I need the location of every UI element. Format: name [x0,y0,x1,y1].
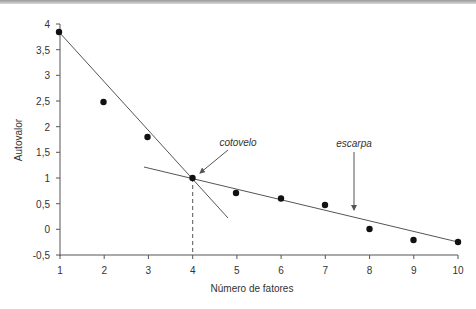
data-point [56,29,62,35]
x-tick-label: 6 [278,265,284,276]
cotovelo-arrow-icon [200,150,228,173]
x-tick-label: 8 [367,265,373,276]
data-point [366,226,372,232]
data-point [455,239,461,245]
y-tick-label: -0,5 [33,250,51,261]
escarpa-label: escarpa [336,138,372,149]
cotovelo-label: cotovelo [219,137,257,148]
x-tick-label: 1 [57,265,63,276]
y-tick-label: 3 [44,70,50,81]
data-point [144,134,150,140]
data-points [56,29,461,245]
data-point [278,195,284,201]
x-tick-label: 3 [146,265,152,276]
x-tick-label: 5 [234,265,240,276]
data-point [189,175,195,181]
y-tick-label: 0 [44,224,50,235]
steep-fit-line [59,32,228,218]
y-tick-label: 3,5 [36,45,50,56]
y-tick-labels: 4 3,5 3 2,5 2 1,5 1 0,5 0 -0,5 [33,19,51,261]
x-tick-label: 2 [101,265,107,276]
x-tick-label: 10 [452,265,464,276]
y-tick-label: 1,5 [36,147,50,158]
data-point [233,190,239,196]
x-tick-label: 9 [411,265,417,276]
x-axis [60,255,458,259]
data-point [322,202,328,208]
y-tick-label: 4 [44,19,50,30]
x-tick-labels: 1 2 3 4 5 6 7 8 9 10 [57,265,464,276]
data-point [410,237,416,243]
y-tick-label: 1 [44,173,50,184]
scree-plot: 4 3,5 3 2,5 2 1,5 1 0,5 0 -0,5 1 2 3 4 5… [0,0,476,309]
y-tick-label: 0,5 [36,199,50,210]
x-axis-title: Número de fatores [211,283,294,294]
y-tick-label: 2,5 [36,96,50,107]
y-axis [56,24,60,256]
data-point [100,99,106,105]
y-tick-label: 2 [44,122,50,133]
y-axis-title: Autovalor [13,118,24,161]
x-tick-label: 7 [323,265,329,276]
x-tick-label: 4 [190,265,196,276]
